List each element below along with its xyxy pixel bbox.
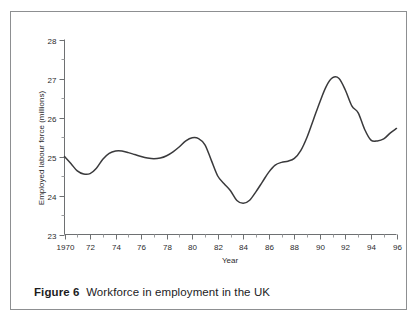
x-tick-label: 96 bbox=[393, 243, 402, 252]
y-tick-label: 23 bbox=[48, 232, 57, 241]
x-tick-label: 74 bbox=[112, 243, 121, 252]
x-axis-title: Year bbox=[222, 256, 239, 265]
x-axis-ticks bbox=[66, 235, 398, 240]
y-tick-label: 28 bbox=[48, 37, 57, 46]
y-axis-tick-labels: 232425262728 bbox=[48, 37, 57, 241]
x-tick-label: 76 bbox=[137, 243, 146, 252]
figure-frame: Employed labour force (millions) 2324252… bbox=[10, 11, 407, 310]
figure-caption-body: Workforce in employment in the UK bbox=[86, 286, 270, 298]
x-tick-label: 78 bbox=[163, 243, 172, 252]
y-axis-title: Employed labour force (millions) bbox=[37, 91, 46, 206]
x-axis-tick-labels: 197072747678808284868890929496 bbox=[57, 243, 403, 252]
y-tick-label: 24 bbox=[48, 193, 57, 202]
chart-plot-area: Employed labour force (millions) 2324252… bbox=[11, 12, 408, 270]
x-tick-label: 82 bbox=[214, 243, 223, 252]
y-tick-label: 25 bbox=[48, 154, 57, 163]
x-tick-label: 72 bbox=[86, 243, 95, 252]
x-tick-label: 86 bbox=[265, 243, 274, 252]
figure-caption: Figure 6 Workforce in employment in the … bbox=[11, 274, 408, 310]
figure-caption-label: Figure 6 bbox=[34, 286, 80, 298]
x-tick-label: 88 bbox=[290, 243, 299, 252]
line-chart: Employed labour force (millions) 2324252… bbox=[11, 12, 408, 270]
y-axis-ticks bbox=[60, 41, 65, 236]
x-tick-label: 80 bbox=[188, 243, 197, 252]
figure-caption-text: Figure 6 Workforce in employment in the … bbox=[34, 286, 270, 298]
x-tick-label: 1970 bbox=[57, 243, 75, 252]
x-tick-label: 84 bbox=[239, 243, 248, 252]
x-tick-label: 92 bbox=[341, 243, 350, 252]
y-tick-label: 26 bbox=[48, 115, 57, 124]
x-tick-label: 94 bbox=[367, 243, 376, 252]
data-series-line bbox=[65, 77, 397, 203]
y-tick-label: 27 bbox=[48, 76, 57, 85]
x-tick-label: 90 bbox=[316, 243, 325, 252]
